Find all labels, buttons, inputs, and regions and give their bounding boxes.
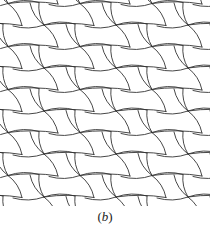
figure-caption: (b) [0, 209, 210, 225]
caption-paren-close: ) [108, 209, 112, 224]
tiling-edges [0, 0, 210, 206]
curved-pentagon-tiling [0, 0, 210, 206]
tiling-figure: (b) [0, 0, 210, 230]
